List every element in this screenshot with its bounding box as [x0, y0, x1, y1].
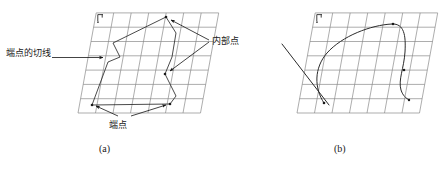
interior-mid-marker: [164, 73, 167, 76]
grid-panel-b: [297, 13, 438, 113]
curve-mid-marker: [403, 69, 406, 72]
curve-start-marker: [323, 102, 326, 105]
interior-top-marker: [165, 16, 168, 19]
curve-end-marker: [408, 99, 410, 101]
label-endpoint-tangent: 端点的切线: [6, 46, 51, 59]
control-point-markers-a: [91, 16, 172, 107]
spline-curve-b: [317, 24, 409, 103]
endpoint-right-marker: [169, 103, 172, 106]
caption-panel-a: (a): [99, 143, 110, 154]
figure-container: 端点的切线 内部点 端点 (a) (b): [0, 0, 446, 169]
label-endpoints: 端点: [109, 118, 127, 131]
grid-corner-mark-a: [97, 15, 103, 23]
curve-top-marker: [392, 23, 395, 26]
grid-panel-a: [78, 13, 219, 113]
label-interior-points: 内部点: [212, 34, 239, 47]
caption-panel-b: (b): [334, 143, 346, 154]
leader-interior: [170, 20, 209, 71]
figure-canvas: [0, 0, 446, 169]
grid-corner-mark-b: [316, 15, 322, 23]
endpoint-tangent-segment-b: [282, 44, 329, 105]
endpoint-left-marker: [91, 104, 94, 107]
